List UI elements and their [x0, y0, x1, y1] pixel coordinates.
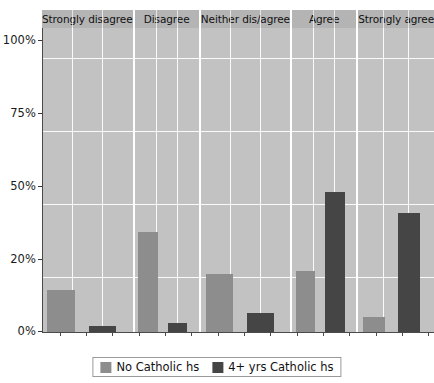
x-tick-mark — [60, 332, 61, 336]
panel-disagree: Disagree — [135, 10, 199, 332]
x-tick-mark — [270, 332, 271, 336]
x-tick-mark — [349, 332, 350, 336]
legend-label: No Catholic hs — [116, 360, 199, 374]
x-tick-mark — [191, 332, 192, 336]
bar-4plus-yrs-catholic-hs — [247, 313, 274, 332]
legend-label: 4+ yrs Catholic hs — [228, 360, 333, 374]
panel-header-label: Disagree — [144, 13, 190, 25]
legend-swatch-icon — [100, 362, 111, 373]
panel-header-label: Strongly agree — [358, 13, 434, 25]
panel-plot-area — [201, 28, 290, 332]
panel-strongly-disagree: Strongly disagree — [42, 10, 133, 332]
chart-legend: No Catholic hs 4+ yrs Catholic hs — [92, 357, 341, 377]
panel-plot-area — [358, 28, 434, 332]
panel-plot-area — [292, 28, 356, 332]
panel-header: Strongly disagree — [42, 10, 133, 28]
y-tick-label: 75% — [10, 106, 36, 120]
panel-plot-area — [135, 28, 199, 332]
y-tick-label: 0% — [18, 324, 36, 338]
panel-header: Disagree — [135, 10, 199, 28]
panel-plot-area — [42, 28, 133, 332]
panel-strongly-agree: Strongly agree — [358, 10, 434, 332]
x-tick-mark — [218, 332, 219, 336]
panel-header-label: Neither dis/agree — [201, 13, 290, 25]
bar-no-catholic-hs — [138, 232, 157, 332]
bar-4plus-yrs-catholic-hs — [325, 192, 344, 332]
x-tick-mark — [323, 332, 324, 336]
bar-no-catholic-hs — [363, 317, 386, 332]
bar-chart: 100% 75% 50% 20% 0% Strongly disagree — [0, 0, 434, 383]
legend-item-4plus-yrs-catholic-hs: 4+ yrs Catholic hs — [212, 360, 333, 374]
x-tick-mark — [297, 332, 298, 336]
x-tick-mark — [244, 332, 245, 336]
legend-item-no-catholic-hs: No Catholic hs — [100, 360, 199, 374]
bar-no-catholic-hs — [47, 290, 74, 332]
y-axis-line — [42, 10, 43, 332]
panel-header: Neither dis/agree — [201, 10, 290, 28]
legend-swatch-icon — [212, 362, 223, 373]
y-tick-label: 50% — [10, 179, 36, 193]
bar-4plus-yrs-catholic-hs — [168, 323, 187, 332]
bar-4plus-yrs-catholic-hs — [398, 213, 421, 332]
bar-no-catholic-hs — [206, 274, 233, 332]
panel-neither-disagree: Neither dis/agree — [201, 10, 290, 332]
x-tick-mark — [402, 332, 403, 336]
panel-strip: Strongly disagree Disagree — [42, 10, 434, 332]
x-tick-mark — [428, 332, 429, 336]
x-tick-mark — [139, 332, 140, 336]
y-tick-label: 100% — [3, 33, 36, 47]
y-tick-label: 20% — [10, 252, 36, 266]
y-axis: 100% 75% 50% 20% 0% — [0, 0, 42, 340]
panel-header: Agree — [292, 10, 356, 28]
panel-header: Strongly agree — [358, 10, 434, 28]
x-tick-mark — [376, 332, 377, 336]
panel-header-label: Strongly disagree — [42, 13, 133, 25]
x-tick-mark — [86, 332, 87, 336]
x-tick-mark — [165, 332, 166, 336]
x-tick-mark — [112, 332, 113, 336]
panel-agree: Agree — [292, 10, 356, 332]
bar-no-catholic-hs — [296, 271, 315, 332]
